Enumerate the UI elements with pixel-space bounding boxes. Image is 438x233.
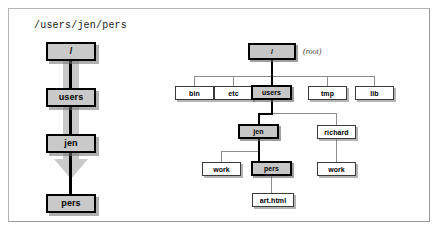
tree-node-tmp[interactable]: tmp [308,86,347,100]
tree-node-root-label: / [271,48,273,55]
tree-edge-root-etc [233,76,234,86]
tree-edge-root-lib [374,76,375,86]
chain-edge-root-users [69,60,72,89]
tree-edge-richard-work [336,138,337,162]
tree-node-work-richard[interactable]: work [317,162,356,176]
tree-edge-root-stub [271,60,273,77]
tree-node-work-jen[interactable]: work [202,162,241,176]
tree-node-jen-label: jen [253,128,263,135]
tree-node-pers[interactable]: pers [251,161,292,176]
path-caption: /users/jen/pers [34,20,127,31]
tree-edge-pers-arthtml [271,175,272,193]
tree-edge-users-stub [271,99,273,114]
tree-node-etc[interactable]: etc [214,86,253,100]
tree-edge-users-richard [336,113,337,125]
chain-node-users[interactable]: users [46,88,96,107]
tree-bus-users-highlight [258,113,273,115]
figure-container: /users/jen/pers / users jen pers [0,0,438,233]
tree-node-users-label: users [262,89,281,96]
tree-node-jen[interactable]: jen [238,124,279,139]
tree-node-work-richard-label: work [328,166,345,173]
chain-node-root[interactable]: / [46,42,96,61]
tree-edge-jen-work [221,151,222,162]
tree-node-bin[interactable]: bin [175,86,214,100]
tree-node-root[interactable]: / [248,43,296,60]
tree-bus-jen-children [221,151,260,152]
tree-edge-root-bin [194,76,195,86]
tree-node-art-html[interactable]: art.html [252,193,294,207]
tree-node-etc-label: etc [228,90,238,97]
tree-node-lib-label: lib [370,90,378,97]
tree-edge-root-tmp [327,76,328,86]
tree-node-richard-label: richard [324,129,348,136]
chain-node-jen[interactable]: jen [46,134,96,153]
root-annotation: (root) [303,47,321,56]
chain-edge-users-jen [69,106,72,135]
chain-edge-jen-pers [69,152,72,196]
tree-node-lib[interactable]: lib [355,86,394,100]
tree-node-art-html-label: art.html [260,197,286,204]
tree-edge-jen-stub [258,138,260,152]
tree-node-pers-label: pers [264,165,279,172]
chain-node-users-label: users [59,93,84,102]
tree-node-work-jen-label: work [213,166,230,173]
chain-node-root-label: / [70,47,73,56]
tree-node-tmp-label: tmp [321,90,334,97]
tree-node-bin-label: bin [189,90,200,97]
tree-node-richard[interactable]: richard [317,125,356,139]
tree-node-users[interactable]: users [251,85,292,100]
chain-node-jen-label: jen [64,139,77,148]
chain-node-pers-label: pers [61,199,80,208]
chain-node-pers[interactable]: pers [46,194,96,213]
tree-bus-root-children [194,76,374,77]
